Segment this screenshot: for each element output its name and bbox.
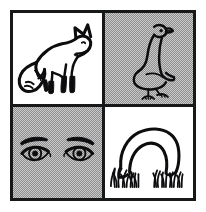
figure-root <box>0 0 206 212</box>
panel-top-right-goose <box>105 13 194 104</box>
panel-grid <box>10 10 196 201</box>
fox-illustration <box>13 13 102 104</box>
grass-tuft-right <box>153 170 183 187</box>
goose-illustration <box>105 13 194 104</box>
eyes-illustration <box>13 107 102 198</box>
panel-top-left-fox <box>13 13 102 104</box>
panel-bottom-right-grazing-sheep <box>105 107 194 198</box>
panel-bottom-left-eyes <box>13 107 102 198</box>
grazing-sheep-illustration <box>105 107 194 198</box>
